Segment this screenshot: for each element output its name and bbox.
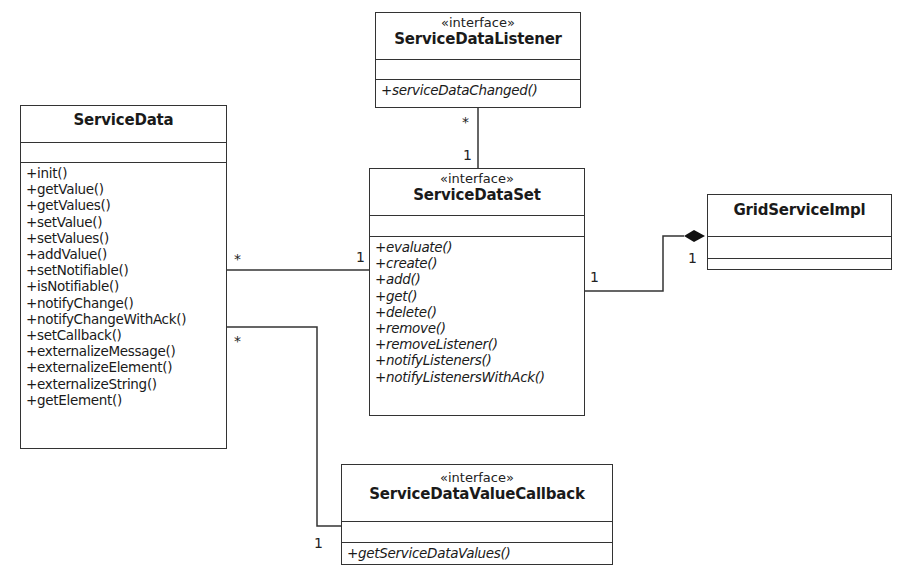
- operation-item: +getElement(): [26, 392, 221, 408]
- operation-item: +getValues(): [26, 197, 221, 213]
- multiplicity-label: 1: [463, 148, 472, 162]
- operation-item: +setValues(): [26, 230, 221, 246]
- attributes-compartment: [376, 60, 580, 80]
- class-name: ServiceDataSet: [374, 186, 580, 204]
- multiplicity-label: *: [234, 252, 241, 266]
- composition-diamond-icon: [684, 230, 705, 242]
- class-header: ServiceData: [21, 106, 226, 143]
- operation-item: +init(): [26, 165, 221, 181]
- operation-item: +notifyListenersWithAck(): [375, 369, 579, 385]
- attributes-compartment: [21, 143, 226, 163]
- class-header: «interface» ServiceDataValueCallback: [342, 465, 612, 522]
- class-grid-service-impl[interactable]: GridServiceImpl: [707, 194, 892, 270]
- operation-item: +setCallback(): [26, 327, 221, 343]
- multiplicity-label: 1: [590, 270, 599, 284]
- class-name: GridServiceImpl: [712, 201, 887, 219]
- operation-item: +notifyChange(): [26, 295, 221, 311]
- class-name: ServiceData: [25, 111, 222, 129]
- multiplicity-label: *: [462, 115, 469, 129]
- multiplicity-label: 1: [688, 251, 697, 265]
- operation-item: +externalizeMessage(): [26, 343, 221, 359]
- operation-item: +create(): [375, 255, 579, 271]
- operation-item: +setNotifiable(): [26, 262, 221, 278]
- class-service-data[interactable]: ServiceData +init()+getValue()+getValues…: [20, 105, 227, 449]
- operation-item: +getServiceDataValues(): [347, 545, 607, 561]
- operation-item: +externalizeElement(): [26, 359, 221, 375]
- operations-compartment: +init()+getValue()+getValues()+setValue(…: [21, 163, 226, 410]
- stereotype-label: «interface»: [380, 15, 576, 30]
- set-grid-composition: [584, 236, 684, 291]
- class-header: «interface» ServiceDataListener: [376, 13, 580, 60]
- operation-item: +evaluate(): [375, 239, 579, 255]
- attributes-compartment: [708, 237, 891, 259]
- operation-item: +removeListener(): [375, 336, 579, 352]
- operation-item: +externalizeString(): [26, 376, 221, 392]
- class-header: GridServiceImpl: [708, 195, 891, 237]
- stereotype-label: «interface»: [374, 171, 580, 186]
- operations-compartment: +getServiceDataValues(): [342, 543, 612, 563]
- servicedata-callback-association: [226, 327, 341, 526]
- operations-compartment: [708, 259, 891, 279]
- class-service-data-set[interactable]: «interface» ServiceDataSet +evaluate()+c…: [369, 168, 585, 416]
- operation-item: +setValue(): [26, 214, 221, 230]
- multiplicity-label: *: [234, 334, 241, 348]
- operations-compartment: +evaluate()+create()+add()+get()+delete(…: [370, 237, 584, 387]
- class-service-data-value-callback[interactable]: «interface» ServiceDataValueCallback +ge…: [341, 464, 613, 565]
- operation-item: +get(): [375, 288, 579, 304]
- class-service-data-listener[interactable]: «interface» ServiceDataListener +service…: [375, 12, 581, 108]
- attributes-compartment: [342, 522, 612, 543]
- attributes-compartment: [370, 216, 584, 237]
- operation-item: +add(): [375, 271, 579, 287]
- operation-item: +addValue(): [26, 246, 221, 262]
- multiplicity-label: 1: [356, 250, 365, 264]
- operation-item: +remove(): [375, 320, 579, 336]
- class-name: ServiceDataValueCallback: [346, 485, 608, 503]
- operations-compartment: +serviceDataChanged(): [376, 80, 580, 100]
- operation-item: +notifyListeners(): [375, 352, 579, 368]
- operation-item: +notifyChangeWithAck(): [26, 311, 221, 327]
- stereotype-label: «interface»: [346, 470, 608, 485]
- operation-item: +serviceDataChanged(): [381, 82, 575, 98]
- operation-item: +delete(): [375, 304, 579, 320]
- operation-item: +isNotifiable(): [26, 278, 221, 294]
- class-name: ServiceDataListener: [380, 30, 576, 48]
- class-header: «interface» ServiceDataSet: [370, 169, 584, 216]
- multiplicity-label: 1: [314, 536, 323, 550]
- operation-item: +getValue(): [26, 181, 221, 197]
